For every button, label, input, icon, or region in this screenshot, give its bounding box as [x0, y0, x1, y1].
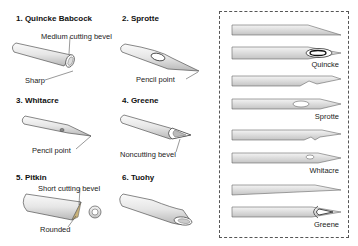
side-label-whitacre: Whitacre — [309, 166, 339, 175]
title-whitacre: 3. Whitacre — [16, 96, 59, 105]
title-sprotte: 2. Sprotte — [122, 14, 159, 23]
quincke-babcock-needle — [12, 37, 76, 80]
side-comparison-box — [219, 11, 349, 238]
title-greene: 4. Greene — [122, 96, 158, 105]
label-medium-cutting-bevel: Medium cutting bevel — [41, 32, 112, 41]
label-whitacre-pencil-point: Pencil point — [32, 146, 71, 155]
whitacre-needle — [22, 116, 91, 149]
label-noncutting-bevel: Noncutting bevel — [120, 150, 176, 159]
side-label-sprotte: Sprotte — [315, 112, 339, 121]
label-rounded: Rounded — [40, 225, 70, 234]
pitkin-needle — [23, 188, 101, 227]
side-label-greene: Greene — [314, 220, 339, 229]
label-sharp: Sharp — [25, 76, 45, 85]
title-pitkin: 5. Pitkin — [16, 173, 47, 182]
side-label-quincke: Quincke — [311, 60, 339, 69]
sprotte-needle — [121, 44, 199, 79]
label-sprotte-pencil-point: Pencil point — [136, 75, 175, 84]
label-short-cutting-bevel: Short cutting bevel — [38, 184, 100, 193]
title-quincke-babcock: 1. Quincke Babcock — [16, 14, 92, 23]
title-tuohy: 6. Tuohy — [122, 173, 154, 182]
tuohy-needle — [120, 194, 193, 226]
greene-needle — [120, 115, 191, 152]
